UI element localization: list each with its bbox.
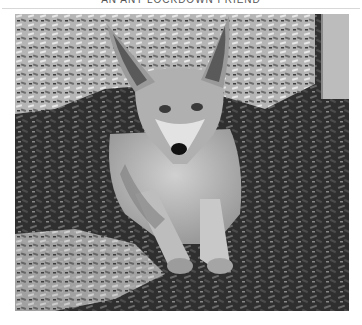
page-title: AN ANT LOCKDOWN FRIEND bbox=[0, 0, 362, 5]
title-divider bbox=[2, 8, 360, 9]
fox-photo bbox=[15, 14, 349, 311]
bottom-margin bbox=[0, 311, 362, 325]
